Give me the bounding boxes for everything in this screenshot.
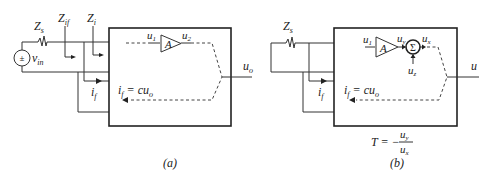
source-polarity: ± xyxy=(20,53,25,63)
source-impedance-zigzag xyxy=(38,36,47,46)
source-top-wire xyxy=(22,42,38,50)
zif-label: Zif xyxy=(58,11,71,27)
loop-gain-denominator: ux xyxy=(400,143,410,157)
feedback-equation: if = cuo xyxy=(344,83,379,99)
amp-in-label: u1 xyxy=(363,33,372,47)
feedback-current-arrow-icon xyxy=(321,78,327,84)
uz-label: uz xyxy=(408,64,417,78)
feedback-current-arrow-icon xyxy=(96,78,102,84)
amplifier-block xyxy=(334,28,457,126)
zi-label: Zi xyxy=(87,11,96,27)
amp-gain-label: A xyxy=(164,38,172,50)
bottom-wire xyxy=(22,66,109,72)
feedback-equation: if = cuo xyxy=(118,83,153,99)
amp-out-label: u2 xyxy=(182,29,192,43)
caption-b: (b) xyxy=(390,156,404,170)
loop-gain-numerator: uy xyxy=(400,128,410,142)
zif-arrow-icon xyxy=(71,55,76,59)
zs-label: Zs xyxy=(34,19,44,35)
loop-gain-lhs: T = − xyxy=(371,135,400,149)
ux-arrow-icon xyxy=(422,45,426,50)
sum-symbol: Σ xyxy=(410,42,416,53)
zi-pointer xyxy=(93,26,101,55)
panel-b: Zs if A u1 uy Σ uz ux if = cuo u T = − u… xyxy=(271,19,479,170)
vin-label: vin xyxy=(32,51,44,67)
loop-arrow-icon xyxy=(349,97,355,103)
uo-label: uo xyxy=(243,59,253,75)
zs-label: Zs xyxy=(283,19,293,35)
feedback-current-wire xyxy=(309,43,334,81)
ux-label: ux xyxy=(422,32,432,46)
caption-a: (a) xyxy=(163,156,177,170)
uy-label: uy xyxy=(397,32,407,46)
panel-a: ± Zs vin Zif Zi if A u1 u2 if = cuo uo xyxy=(14,11,253,170)
amp-in-label: u1 xyxy=(147,29,156,43)
u-output-label: u xyxy=(471,59,477,73)
zi-arrow-icon xyxy=(99,53,104,57)
feedback-diagram: ± Zs vin Zif Zi if A u1 u2 if = cuo uo xyxy=(0,0,490,178)
amp-gain-label: A xyxy=(379,42,387,54)
source-impedance-zigzag xyxy=(286,37,295,48)
source-left-wire xyxy=(271,43,286,72)
if-label: if xyxy=(318,85,325,101)
if-label: if xyxy=(91,85,98,101)
